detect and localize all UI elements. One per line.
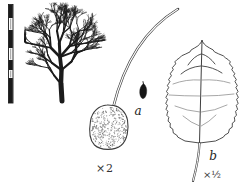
botanical-figure: a ×2 b ×½ <box>0 0 240 186</box>
leaf <box>166 40 239 181</box>
magnification-leaf-label: ×½ <box>203 169 221 180</box>
seed <box>140 82 147 99</box>
leaf-petiole <box>193 143 200 181</box>
caption-a: a <box>134 104 141 118</box>
illustration-canvas: a ×2 b ×½ <box>0 0 240 186</box>
caption-b: b <box>209 149 217 163</box>
tree-silhouette <box>25 3 106 101</box>
scale-bar <box>9 5 14 104</box>
fruit-capsule <box>90 105 128 149</box>
magnification-fruit-label: ×2 <box>96 162 114 175</box>
